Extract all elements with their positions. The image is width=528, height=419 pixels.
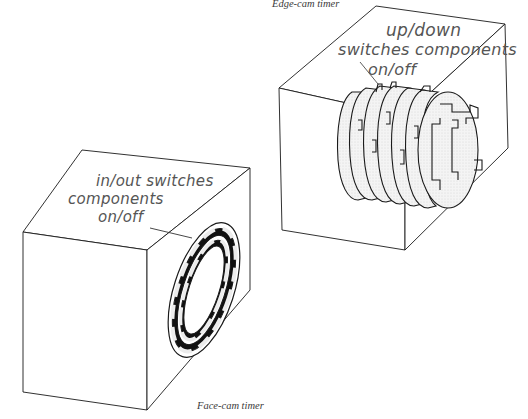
edge-annotation-line2: switches components bbox=[338, 40, 517, 59]
face-cam-caption: Face-cam timer bbox=[197, 400, 264, 411]
diagram-canvas bbox=[0, 0, 528, 419]
edge-annotation-line3: on/off bbox=[368, 60, 416, 79]
edge-annotation-line1: up/down bbox=[386, 20, 461, 40]
timer-diagram: Edge-cam timer Face-cam timer up/down sw… bbox=[0, 0, 528, 419]
edge-cam-drum bbox=[338, 82, 482, 208]
face-annotation-line3: on/off bbox=[98, 208, 143, 226]
face-cube-front-face bbox=[23, 232, 147, 410]
edge-cam-caption: Edge-cam timer bbox=[272, 0, 339, 9]
face-annotation-line2: components bbox=[68, 190, 164, 208]
face-annotation-line1: in/out switches bbox=[96, 172, 214, 190]
